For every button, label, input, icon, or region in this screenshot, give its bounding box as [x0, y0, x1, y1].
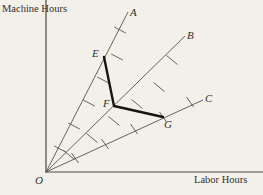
- ray-a-tick: [111, 54, 123, 60]
- ray-b-tick: [132, 100, 143, 109]
- ray-c-label: C: [205, 93, 212, 104]
- diagram-canvas: [0, 0, 263, 195]
- ray-b-tick: [109, 117, 120, 126]
- ray-b-label: B: [187, 30, 194, 41]
- point-f-label: F: [103, 98, 110, 109]
- ray-a-tick: [83, 100, 95, 106]
- ray-c-ticks: [72, 97, 194, 163]
- ray-b-tick: [87, 134, 98, 143]
- y-axis-label: Machine Hours: [2, 3, 44, 15]
- isoquant-diagram: Machine Hours Labor Hours O A B C E F G: [0, 0, 263, 195]
- point-e-label: E: [92, 48, 99, 59]
- ray-a-ticks: [54, 27, 126, 152]
- point-g-label: G: [164, 119, 172, 130]
- ray-b-tick: [154, 83, 165, 92]
- ray-a-label: A: [130, 7, 137, 18]
- ray-b-tick: [167, 56, 178, 65]
- ray-c-line: [46, 100, 203, 172]
- x-axis-label: Labor Hours: [194, 174, 247, 186]
- axes-group: [46, 0, 263, 172]
- origin-label: O: [35, 175, 43, 186]
- ray-a-group: [46, 12, 128, 172]
